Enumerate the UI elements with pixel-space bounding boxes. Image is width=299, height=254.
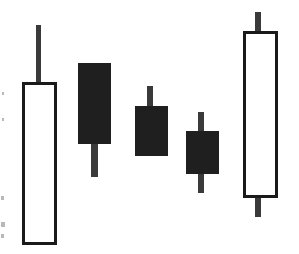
candle-2 (78, 63, 110, 177)
scan-artifact-5 (2, 118, 4, 121)
scan-artifact-2 (1, 222, 5, 227)
candle-2-body (78, 63, 110, 143)
candle-3 (135, 86, 167, 155)
candle-5 (245, 12, 277, 217)
candle-1 (24, 25, 56, 245)
candlestick-chart (0, 0, 299, 254)
candle-3-body (135, 106, 167, 155)
scan-artifact-1 (1, 196, 4, 200)
scan-artifact-3 (1, 234, 4, 238)
candle-4-body (186, 131, 218, 173)
candle-5-body (245, 33, 277, 197)
candlestick-plot-area (0, 0, 299, 254)
candle-1-body (24, 84, 56, 244)
scan-artifact-4 (2, 92, 4, 95)
candle-4 (186, 112, 218, 193)
